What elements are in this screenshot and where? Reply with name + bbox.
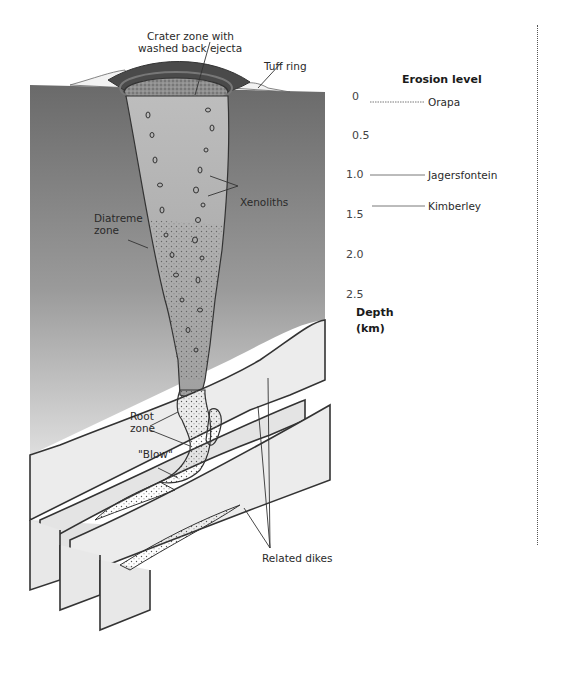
svg-text:Xenoliths: Xenoliths (240, 196, 288, 208)
svg-text:"Blow": "Blow" (138, 448, 173, 460)
svg-text:Tuff ring: Tuff ring (263, 60, 307, 72)
svg-text:(km): (km) (356, 322, 385, 335)
svg-text:1.5: 1.5 (346, 208, 364, 221)
svg-text:0: 0 (352, 90, 359, 103)
svg-text:0.5: 0.5 (352, 129, 370, 142)
svg-text:Related dikes: Related dikes (262, 552, 332, 564)
svg-text:2.0: 2.0 (346, 248, 364, 261)
svg-text:zone: zone (94, 224, 119, 236)
kimberlite-pipe-diagram: 0 0.5 1.0 1.5 2.0 2.5 Depth (km) Erosion… (0, 0, 563, 682)
svg-text:Kimberley: Kimberley (428, 200, 481, 212)
depth-axis: 0 0.5 1.0 1.5 2.0 2.5 Depth (km) (346, 90, 394, 335)
svg-text:Crater zone with: Crater zone with (147, 30, 234, 42)
svg-text:Diatreme: Diatreme (94, 212, 143, 224)
svg-text:washed back ejecta: washed back ejecta (138, 42, 242, 54)
svg-text:Erosion level: Erosion level (402, 73, 482, 86)
svg-text:Orapa: Orapa (428, 96, 460, 108)
svg-text:zone: zone (130, 422, 155, 434)
erosion-levels: Erosion level Orapa Jagersfontein Kimber… (370, 73, 497, 212)
svg-text:2.5: 2.5 (346, 288, 364, 301)
svg-text:1.0: 1.0 (346, 168, 364, 181)
svg-text:Root: Root (130, 410, 154, 422)
svg-text:Depth: Depth (356, 306, 394, 319)
svg-text:Jagersfontein: Jagersfontein (427, 169, 497, 181)
